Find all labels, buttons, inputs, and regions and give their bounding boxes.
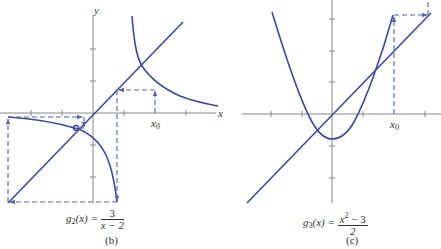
panel-c-fraction: x2 − 3 2: [338, 210, 368, 237]
panel-c: [242, 0, 441, 203]
panel-b-cobweb: [8, 90, 155, 202]
panel-c-identity-line: [247, 13, 431, 203]
panel-c-cobweb: [394, 0, 428, 114]
panel-b-label: (b): [105, 234, 118, 246]
panel-b-axes: [0, 16, 216, 203]
panel-b-fraction: 3 x − 2: [101, 208, 124, 231]
panel-c-axes: [242, 0, 441, 203]
panel-b: [0, 16, 218, 203]
panel-c-function-caption: g3(x) = x2 − 3 2: [303, 210, 368, 237]
panel-b-x0-label: x0: [151, 118, 160, 131]
panel-c-label: (c): [346, 234, 358, 246]
panel-c-x0-label: x0: [390, 119, 399, 132]
panel-b-function-caption: g2(x) = 3 x − 2: [66, 208, 124, 231]
panel-b-x-axis-label: x: [218, 108, 223, 119]
panel-b-y-axis-label: y: [94, 5, 99, 16]
panel-b-g2-left-branch: [8, 117, 117, 202]
